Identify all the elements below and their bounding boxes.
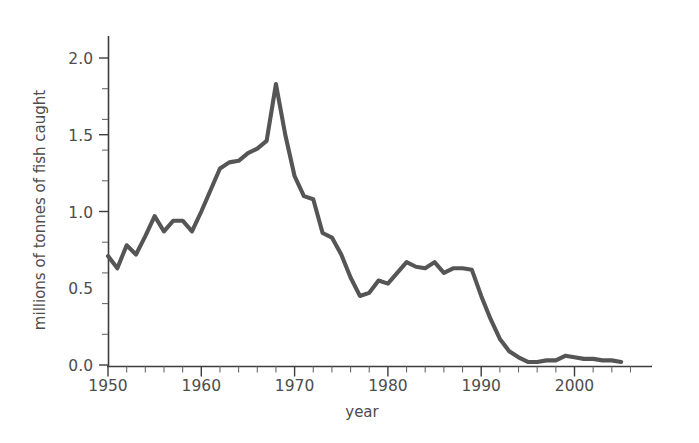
x-tick-label-1970: 1970 — [275, 377, 314, 395]
y-tick-label-1-0: 1.0 — [68, 204, 93, 222]
x-tick-label-1960: 1960 — [182, 377, 221, 395]
x-axis-ticks — [108, 367, 630, 377]
x-tick-label-1990: 1990 — [461, 377, 500, 395]
x-tick-label-1950: 1950 — [88, 377, 127, 395]
x-axis-title: year — [345, 403, 379, 421]
y-tick-label-0-0: 0.0 — [68, 357, 93, 375]
y-axis-ticks — [99, 27, 108, 365]
x-tick-label-2000: 2000 — [555, 377, 594, 395]
y-tick-label-1-5: 1.5 — [68, 127, 93, 145]
y-axis-title: millions of tonnes of fish caught — [31, 90, 49, 330]
data-series-line — [108, 84, 621, 362]
chart-figure: 2.0 1.5 1.0 0.5 0.0 1950 1960 1970 1980 … — [0, 0, 699, 443]
y-tick-label-2-0: 2.0 — [68, 50, 93, 68]
line-chart-canvas: 2.0 1.5 1.0 0.5 0.0 1950 1960 1970 1980 … — [0, 0, 699, 443]
y-tick-label-0-5: 0.5 — [68, 280, 93, 298]
x-tick-label-1980: 1980 — [368, 377, 407, 395]
